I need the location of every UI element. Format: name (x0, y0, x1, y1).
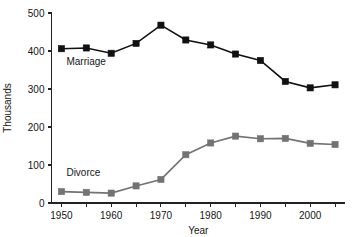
data-point-marriage-1960 (108, 50, 114, 56)
data-point-marriage-1970 (158, 22, 164, 28)
x-tick-label: 2000 (299, 210, 322, 221)
data-point-divorce-1970 (158, 176, 164, 182)
series-label-marriage: Marriage (66, 56, 106, 67)
data-point-divorce-1980 (208, 140, 214, 146)
x-axis-ticks: 195019601970198019902000 (50, 203, 335, 221)
y-tick-label: 300 (28, 84, 45, 95)
data-point-marriage-1995 (282, 78, 288, 84)
data-point-marriage-1985 (232, 51, 238, 57)
y-axis-ticks: 0100200300400500 (28, 8, 52, 209)
y-axis-title: Thousands (2, 83, 13, 132)
data-point-marriage-1980 (208, 42, 214, 48)
data-point-marriage-1955 (83, 45, 89, 51)
data-point-divorce-1965 (133, 183, 139, 189)
y-tick-label: 0 (39, 198, 45, 209)
x-tick-label: 1980 (200, 210, 223, 221)
y-tick-label: 200 (28, 122, 45, 133)
data-point-divorce-2000 (307, 140, 313, 146)
data-point-divorce-1995 (282, 135, 288, 141)
line-chart: 0100200300400500 19501960197019801990200… (0, 0, 353, 237)
data-point-divorce-1960 (108, 190, 114, 196)
x-tick-label: 1970 (150, 210, 173, 221)
data-point-marriage-2000 (307, 85, 313, 91)
x-tick-label: 1950 (50, 210, 73, 221)
data-point-marriage-1965 (133, 40, 139, 46)
data-point-divorce-1985 (232, 133, 238, 139)
chart-container: 0100200300400500 19501960197019801990200… (0, 0, 353, 237)
y-tick-label: 500 (28, 8, 45, 19)
x-tick-label: 1960 (100, 210, 123, 221)
data-point-marriage-1990 (257, 57, 263, 63)
data-point-marriage-1975 (183, 37, 189, 43)
data-point-marriage-1950 (58, 46, 64, 52)
data-point-divorce-1975 (183, 152, 189, 158)
data-point-divorce-1990 (257, 136, 263, 142)
series-line-divorce (61, 136, 335, 193)
y-tick-label: 100 (28, 160, 45, 171)
data-point-divorce-1950 (58, 189, 64, 195)
y-tick-label: 400 (28, 46, 45, 57)
x-tick-label: 1990 (249, 210, 272, 221)
series-label-divorce: Divorce (66, 167, 100, 178)
data-point-divorce-1955 (83, 189, 89, 195)
x-axis-title: Year (188, 225, 209, 236)
data-point-marriage-2005 (332, 82, 338, 88)
data-point-divorce-2005 (332, 141, 338, 147)
series-annotations: MarriageDivorce (66, 56, 106, 177)
